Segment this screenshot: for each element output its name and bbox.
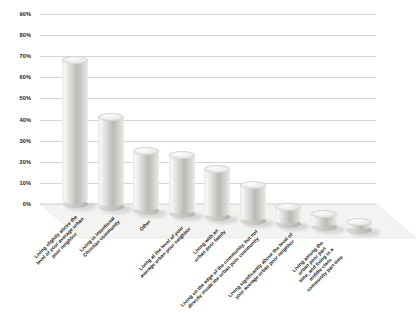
bar-8 [311,214,337,227]
bar-top-ellipse [204,165,230,173]
bar-5 [204,169,230,218]
y-tick-label: 40% [0,117,31,123]
y-tick-label: 80% [0,32,31,38]
bar-7 [275,207,301,224]
bar-1 [62,60,88,204]
bar-body [240,185,266,221]
y-tick-label: 70% [0,53,31,59]
x-category-label-8: Living among the urban poor parttime, an… [286,235,347,296]
bar-body [204,169,230,218]
bar-9 [346,222,372,230]
y-tick-label: 50% [0,95,31,101]
bar-series [40,14,376,204]
bar-body [98,117,124,208]
bar-top-ellipse [98,113,124,121]
plot-area: 90%80%70%60%50%40%30%20%10%0% [40,14,376,204]
x-category-label-line: your average urban poor neighbor [232,236,299,303]
bar-top-ellipse [275,203,301,211]
x-category-label-line: time, and living in a middle class [294,244,343,293]
bar-4 [169,155,195,214]
bar-top-ellipse [346,218,372,226]
y-tick-label: 30% [0,138,31,144]
y-tick-label: 10% [0,180,31,186]
bar-body [133,151,159,210]
y-tick-label: 0% [0,201,31,207]
bar-3 [133,151,159,210]
x-category-label-line: directly inside the urban poor community [184,233,264,313]
bar-top-ellipse [169,151,195,159]
bar-2 [98,117,124,208]
y-tick-label: 90% [0,11,31,17]
x-category-label-line: community part time [303,252,347,296]
bar-body [169,155,195,214]
y-tick-label: 60% [0,74,31,80]
bar-6 [240,185,266,221]
bar-top-ellipse [240,181,266,189]
y-tick-label: 20% [0,159,31,165]
bar-body [62,60,88,204]
